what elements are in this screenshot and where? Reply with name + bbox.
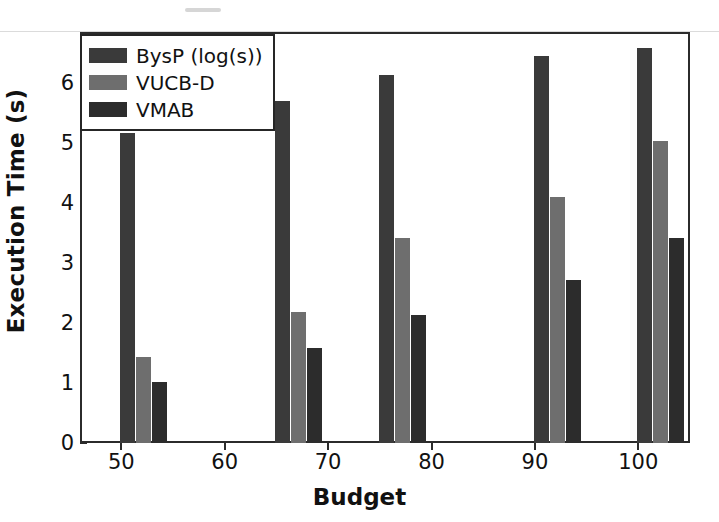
bar-bysp-log-s-50 [120, 133, 135, 443]
legend-swatch-icon-0 [89, 48, 127, 63]
bar-bysp-log-s-75 [379, 75, 394, 443]
x-tick-label-80: 80 [418, 450, 445, 474]
legend-swatch-icon-1 [89, 75, 127, 90]
bar-chart-figure: 0123456 5060708090100 Execution Time (s)… [0, 0, 719, 522]
x-tick-mark-60 [224, 443, 226, 450]
x-tick-mark-70 [327, 443, 329, 450]
x-tick-mark-80 [431, 443, 433, 450]
bar-vmab-100 [669, 238, 684, 443]
bar-vucb-d-100 [653, 141, 668, 443]
bar-vmab-75 [411, 315, 426, 443]
x-tick-mark-50 [120, 443, 122, 450]
chart-legend: BysP (log(s))VUCB-DVMAB [80, 34, 275, 131]
x-tick-label-50: 50 [108, 450, 135, 474]
x-tick-label-70: 70 [315, 450, 342, 474]
bar-vmab-50 [152, 382, 167, 443]
legend-item-0: BysP (log(s)) [89, 42, 263, 69]
bar-vucb-d-50 [136, 357, 151, 443]
x-axis-title: Budget [0, 484, 719, 510]
legend-label-1: VUCB-D [136, 73, 215, 93]
bar-bysp-log-s-100 [637, 48, 652, 443]
bar-vucb-d-65 [291, 312, 306, 443]
legend-item-2: VMAB [89, 96, 263, 123]
legend-item-1: VUCB-D [89, 69, 263, 96]
x-tick-label-90: 90 [522, 450, 549, 474]
legend-label-2: VMAB [136, 100, 194, 120]
x-tick-label-60: 60 [211, 450, 238, 474]
x-tick-mark-100 [637, 443, 639, 450]
bar-bysp-log-s-65 [275, 101, 290, 443]
legend-label-0: BysP (log(s)) [136, 46, 263, 66]
bar-bysp-log-s-90 [534, 56, 549, 443]
bar-vmab-90 [566, 280, 581, 443]
bar-vucb-d-90 [550, 197, 565, 443]
legend-swatch-icon-2 [89, 102, 127, 117]
bar-vucb-d-75 [395, 238, 410, 443]
y-axis-title: Execution Time (s) [3, 41, 29, 381]
bar-vmab-65 [307, 348, 322, 443]
x-tick-mark-90 [534, 443, 536, 450]
x-tick-label-100: 100 [618, 450, 658, 474]
